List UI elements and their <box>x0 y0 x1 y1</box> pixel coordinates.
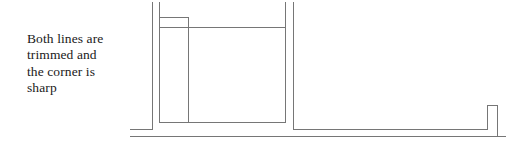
line-drawing-canvas <box>0 0 521 148</box>
drawing-strokes <box>130 2 506 137</box>
right-notch-path <box>488 106 498 137</box>
inner-wall-path <box>160 2 189 18</box>
drawing-svg <box>0 0 521 148</box>
screenshot-root: Both lines are trimmed and the corner is… <box>0 0 521 148</box>
outer-wall-path <box>130 2 153 130</box>
inner-step-path <box>160 18 189 123</box>
